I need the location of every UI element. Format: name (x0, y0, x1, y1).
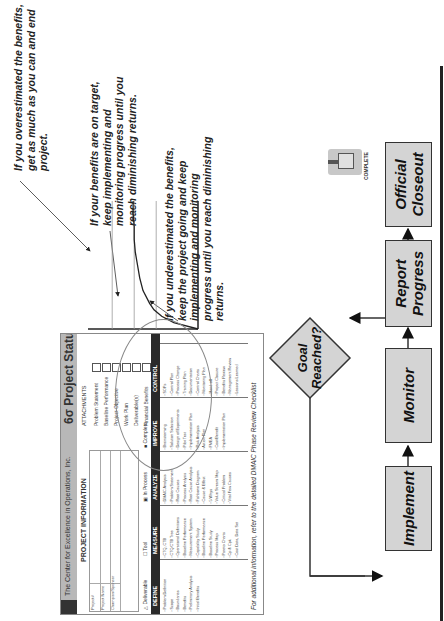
step-report-progress: Report Progress (385, 240, 432, 327)
step-monitor: Monitor (385, 348, 432, 443)
loop-line (310, 392, 365, 576)
step-implement: Implement (385, 466, 432, 551)
flowchart-connectors (0, 0, 444, 621)
decision-goal-reached: Goal Reached? (290, 333, 330, 383)
bottom-rule (440, 66, 443, 621)
complete-badge-icon (328, 149, 362, 175)
page: If you overestimated the benefits, get a… (0, 0, 444, 621)
complete-label: COMPLETE (363, 152, 369, 180)
step-official-closeout: Official Closeout (385, 142, 432, 227)
